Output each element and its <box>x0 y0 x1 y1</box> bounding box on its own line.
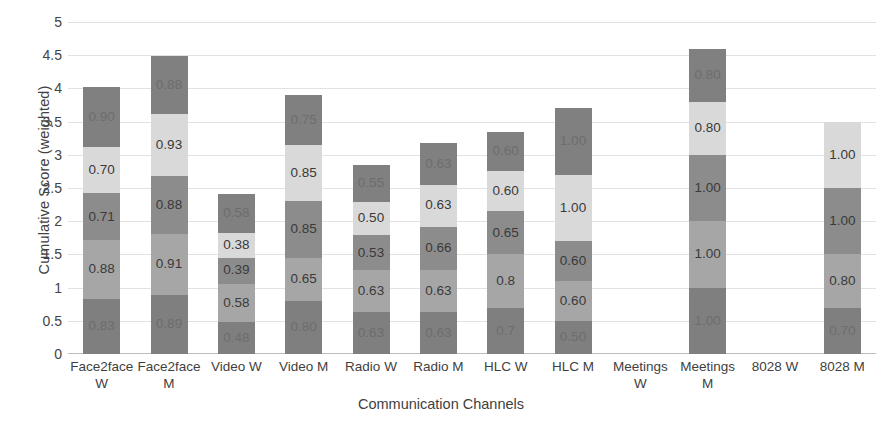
bar-segment-value-label: 0.48 <box>223 331 249 345</box>
bar-segment-value-label: 0.53 <box>358 246 384 260</box>
bar-segment[interactable]: 0.88 <box>83 240 120 298</box>
x-axis-tick-label-line: Meetings <box>674 358 741 375</box>
bar-segment[interactable]: 0.93 <box>151 114 188 176</box>
bar-segment[interactable]: 0.80 <box>285 301 322 354</box>
bar-video-m[interactable]: 0.800.650.850.850.75 <box>285 95 322 354</box>
bar-segment[interactable]: 1.00 <box>689 288 726 354</box>
bar-segment-value-label: 0.55 <box>358 176 384 190</box>
x-axis-tick-label-line: Video M <box>270 358 337 375</box>
bar-hlc-w[interactable]: 0.70.80.650.600.60 <box>487 132 524 354</box>
bar-segment[interactable]: 0.66 <box>420 227 457 271</box>
bar-segment[interactable]: 0.58 <box>218 284 255 323</box>
bar-segment-value-label: 0.63 <box>425 326 451 340</box>
bar-segment[interactable]: 0.91 <box>151 234 188 294</box>
bar-segment-value-label: 0.60 <box>560 254 586 268</box>
bar-segment[interactable]: 0.63 <box>353 270 390 312</box>
bar-face2face-w[interactable]: 0.830.880.710.700.90 <box>83 87 120 354</box>
bar-segment-value-label: 0.60 <box>560 294 586 308</box>
bar-segment[interactable]: 0.63 <box>420 185 457 227</box>
bar-segment[interactable]: 0.65 <box>285 258 322 301</box>
bar-segment[interactable]: 0.53 <box>353 235 390 270</box>
bar-segment[interactable]: 0.58 <box>218 194 255 233</box>
bar-segment[interactable]: 0.75 <box>285 95 322 145</box>
bar-segment-value-label: 0.60 <box>493 184 519 198</box>
bar-segment-value-label: 0.65 <box>493 226 519 240</box>
bar-segment[interactable]: 1.00 <box>555 175 592 241</box>
bar-segment[interactable]: 0.89 <box>151 295 188 354</box>
y-axis-tick-label: 4 <box>30 81 62 95</box>
bar-segment-value-label: 0.63 <box>425 284 451 298</box>
bar-segment[interactable]: 0.63 <box>420 143 457 185</box>
bar-segment[interactable]: 0.55 <box>353 165 390 202</box>
bar-segment-value-label: 0.50 <box>358 211 384 225</box>
bar-segment[interactable]: 0.88 <box>151 176 188 234</box>
x-axis-tick-label-line: Meetings <box>607 358 674 375</box>
bar-segment[interactable]: 0.7 <box>487 308 524 354</box>
bar-segment[interactable]: 0.83 <box>83 299 120 354</box>
bar-segment-value-label: 0.80 <box>291 320 317 334</box>
bar-segment[interactable]: 1.00 <box>555 108 592 174</box>
gridline <box>68 22 876 23</box>
bar-segment-value-label: 0.93 <box>156 138 182 152</box>
bar-segment-value-label: 0.38 <box>223 238 249 252</box>
y-axis-tick-label: 3.5 <box>30 115 62 129</box>
bar-segment[interactable]: 0.71 <box>83 193 120 240</box>
bar-segment[interactable]: 0.70 <box>824 308 861 354</box>
x-axis-tick-label: HLC W <box>472 358 539 375</box>
bar-segment[interactable]: 0.63 <box>420 270 457 312</box>
bar-video-w[interactable]: 0.480.580.390.380.58 <box>218 194 255 354</box>
x-axis-tick-label-line: HLC W <box>472 358 539 375</box>
x-axis-tick-label-line: 8028 M <box>809 358 876 375</box>
bar-radio-m[interactable]: 0.630.630.660.630.63 <box>420 143 457 354</box>
bar-segment[interactable]: 0.85 <box>285 201 322 257</box>
y-axis-tick-label: 0.5 <box>30 314 62 328</box>
bar-segment[interactable]: 0.50 <box>555 321 592 354</box>
bar-segment-value-label: 0.71 <box>89 210 115 224</box>
x-axis-tick-label-line: Radio M <box>405 358 472 375</box>
bar-segment[interactable]: 0.88 <box>151 56 188 114</box>
x-axis-line <box>68 353 876 354</box>
bar-segment[interactable]: 1.00 <box>824 188 861 254</box>
y-axis-tick-label: 2 <box>30 214 62 228</box>
x-axis-tick-label-line: W <box>607 375 674 392</box>
bar-segment[interactable]: 1.00 <box>689 155 726 221</box>
bar-segment[interactable]: 0.80 <box>689 102 726 155</box>
bar-segment[interactable]: 0.90 <box>83 87 120 147</box>
bar-segment[interactable]: 0.50 <box>353 202 390 235</box>
bar-segment-value-label: 1.00 <box>560 201 586 215</box>
x-axis-tick-label: MeetingsW <box>607 358 674 392</box>
bar-segment[interactable]: 1.00 <box>689 221 726 287</box>
bar-segment[interactable]: 0.85 <box>285 145 322 201</box>
x-axis-tick-label: 8028 M <box>809 358 876 375</box>
y-axis-tick-label: 1 <box>30 281 62 295</box>
bar-segment[interactable]: 0.60 <box>487 171 524 211</box>
bar-segment[interactable]: 0.65 <box>487 211 524 254</box>
bar-hlc-m[interactable]: 0.500.600.601.001.00 <box>555 108 592 354</box>
bar-segment[interactable]: 0.63 <box>353 312 390 354</box>
bar-segment-value-label: 0.70 <box>89 163 115 177</box>
x-axis-tick-label: Face2faceW <box>68 358 135 392</box>
bar-segment[interactable]: 0.63 <box>420 312 457 354</box>
bar-segment[interactable]: 0.38 <box>218 233 255 258</box>
x-axis-tick-label-line: M <box>674 375 741 392</box>
bar-8028-m[interactable]: 0.700.801.001.00 <box>824 122 861 354</box>
bar-segment[interactable]: 0.39 <box>218 258 255 284</box>
bar-segment[interactable]: 0.48 <box>218 322 255 354</box>
plot-area: 0.830.880.710.700.900.890.910.880.930.88… <box>68 22 876 354</box>
bar-segment[interactable]: 0.70 <box>83 147 120 193</box>
bar-segment-value-label: 0.88 <box>156 198 182 212</box>
bar-segment[interactable]: 1.00 <box>824 122 861 188</box>
bar-segment[interactable]: 0.8 <box>487 254 524 307</box>
bar-meetings-m[interactable]: 1.001.001.000.800.80 <box>689 49 726 354</box>
bar-segment[interactable]: 0.60 <box>487 132 524 172</box>
bar-segment[interactable]: 0.60 <box>555 281 592 321</box>
bar-segment[interactable]: 0.80 <box>824 254 861 307</box>
bar-segment-value-label: 0.66 <box>425 241 451 255</box>
bar-face2face-m[interactable]: 0.890.910.880.930.88 <box>151 56 188 354</box>
bar-segment-value-label: 0.83 <box>89 319 115 333</box>
bar-segment[interactable]: 0.60 <box>555 241 592 281</box>
bar-segment-value-label: 0.90 <box>89 110 115 124</box>
bar-radio-w[interactable]: 0.630.630.530.500.55 <box>353 165 390 354</box>
bar-segment[interactable]: 0.80 <box>689 49 726 102</box>
gridline <box>68 155 876 156</box>
